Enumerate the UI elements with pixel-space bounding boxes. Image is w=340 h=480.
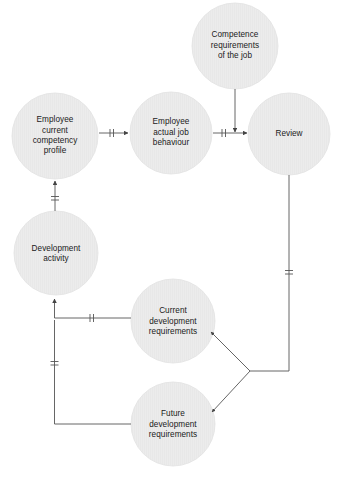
node-circle-future-development-requirements[interactable] (131, 382, 215, 466)
connector-future-requirements-to-development (51, 320, 132, 424)
node-circle-employee-actual-job-behaviour[interactable] (130, 92, 212, 174)
connector-development-to-profile (51, 181, 59, 211)
node-circle-employee-current-competency-profile[interactable] (12, 93, 98, 179)
connector-behaviour-to-review (213, 129, 247, 137)
node-circles (12, 3, 330, 466)
connector-review-to-current-requirements (211, 332, 250, 371)
connector-review-to-future-requirements (212, 371, 250, 412)
node-circle-current-development-requirements[interactable] (131, 279, 215, 363)
node-circle-development-activity[interactable] (14, 211, 98, 295)
node-circle-competence-requirements[interactable] (192, 3, 278, 89)
diagram-canvas: Competence requirements of the job Emplo… (0, 0, 340, 480)
connector-review-to-requirements-junction (250, 175, 293, 371)
diagram-graphics (0, 0, 340, 480)
connector-current-requirements-to-development (55, 299, 132, 322)
node-circle-review[interactable] (248, 93, 330, 175)
connector-profile-to-behaviour (99, 129, 128, 137)
